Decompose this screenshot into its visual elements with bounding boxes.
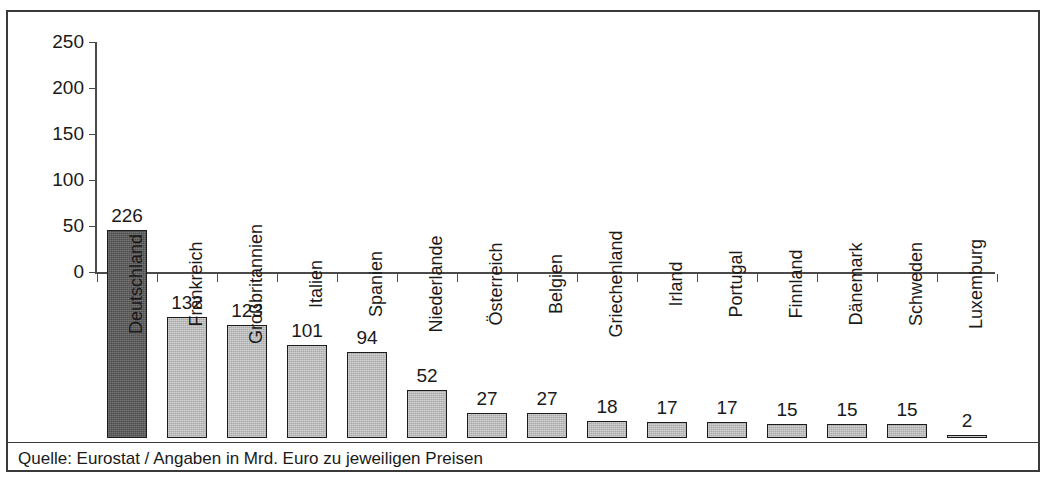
x-axis-category-label: Spanien xyxy=(337,280,397,430)
x-axis-category-label-text: Griechenland xyxy=(607,230,625,337)
x-axis-category-label-text: Irland xyxy=(667,261,685,306)
x-axis-category-label-text: Österreich xyxy=(487,242,505,325)
x-axis-category-label-text: Niederlande xyxy=(427,235,445,332)
y-axis-tick-label-text: 200 xyxy=(38,78,84,97)
x-axis-category-label: Großbritannien xyxy=(217,280,277,430)
y-axis-tick-mark xyxy=(89,272,96,273)
chart-frame: 050100150200250 226132123101945227271817… xyxy=(6,10,1040,472)
y-axis-tick-label: 150 xyxy=(32,124,84,143)
x-axis-category-label-text: Italien xyxy=(307,260,325,308)
y-axis-tick-label-text: 0 xyxy=(38,262,84,281)
x-axis-category-label: Griechenland xyxy=(577,280,637,430)
x-axis-category-label: Belgien xyxy=(517,280,577,430)
x-axis-category-label: Schweden xyxy=(877,280,937,430)
x-axis-category-label-text: Schweden xyxy=(907,242,925,326)
y-axis-tick-label-text: 100 xyxy=(38,170,84,189)
x-axis-category-label: Niederlande xyxy=(397,280,457,430)
source-note: Quelle: Eurostat / Angaben in Mrd. Euro … xyxy=(18,449,483,469)
y-axis-tick-label-text: 250 xyxy=(38,32,84,51)
x-axis-category-label: Irland xyxy=(637,280,697,430)
x-axis-category-label-text: Belgien xyxy=(547,254,565,314)
x-axis-category-label-text: Deutschland xyxy=(127,234,145,334)
y-axis-tick-mark xyxy=(89,88,96,89)
x-axis-tick-mark xyxy=(997,274,998,282)
x-axis-category-label: Portugal xyxy=(697,280,757,430)
x-axis-category-label-text: Frankreich xyxy=(187,241,205,326)
x-axis-category-label: Deutschland xyxy=(97,280,157,430)
x-axis-category-label: Frankreich xyxy=(157,280,217,430)
bar-chart-plot-area: 050100150200250 226132123101945227271817… xyxy=(8,12,1038,440)
y-axis-tick-mark xyxy=(89,134,96,135)
y-axis-tick-label: 250 xyxy=(32,32,84,51)
y-axis-tick-label-text: 150 xyxy=(38,124,84,143)
x-axis-category-label-text: Dänemark xyxy=(847,242,865,325)
footer-divider xyxy=(8,442,1038,443)
x-axis-category-label-text: Spanien xyxy=(367,251,385,317)
x-axis-category-label-text: Finnland xyxy=(787,249,805,318)
y-axis-tick-label: 100 xyxy=(32,170,84,189)
y-axis-tick-label: 50 xyxy=(32,216,84,235)
bar xyxy=(947,435,987,438)
x-axis-category-label: Österreich xyxy=(457,280,517,430)
x-axis-category-label: Italien xyxy=(277,280,337,430)
y-axis-tick-mark xyxy=(89,226,96,227)
y-axis-tick-label: 200 xyxy=(32,78,84,97)
y-axis-tick-label: 0 xyxy=(32,262,84,281)
x-axis-category-label-text: Großbritannien xyxy=(247,224,265,344)
x-axis-category-label: Dänemark xyxy=(817,280,877,430)
bar-value-label: 226 xyxy=(97,206,157,226)
y-axis-tick-mark xyxy=(89,180,96,181)
x-axis-category-label: Finnland xyxy=(757,280,817,430)
y-axis-tick-mark xyxy=(89,42,96,43)
x-axis-category-label: Luxemburg xyxy=(937,280,997,430)
x-axis-category-label-text: Portugal xyxy=(727,250,745,317)
y-axis-tick-label-text: 50 xyxy=(38,216,84,235)
x-axis-category-label-text: Luxemburg xyxy=(967,239,985,329)
